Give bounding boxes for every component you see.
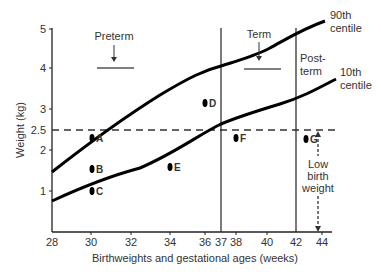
point-marker-icon [203, 99, 208, 107]
y-tick-label: 2.5 [31, 124, 46, 136]
postterm-label-2: term [300, 65, 322, 77]
y-tick-label: 3 [40, 103, 46, 115]
arrow-down-icon [315, 226, 321, 232]
point-marker-icon [234, 134, 239, 142]
x-tick-label: 34 [164, 236, 176, 248]
x-tick-label: 44 [316, 236, 328, 248]
point-F: F [234, 133, 247, 144]
term-annotation: Term [244, 28, 281, 69]
y-tick-label: 5 [40, 23, 46, 35]
y-ticks: 1 2 2.5 3 4 5 [31, 23, 52, 197]
preterm-label: Preterm [94, 30, 133, 42]
x-tick-label: 37 [215, 236, 227, 248]
y-tick-label: 4 [40, 62, 46, 74]
low-birth-weight-annotation: Low birth weight [301, 131, 334, 232]
point-D: D [203, 98, 217, 109]
point-E: E [168, 162, 182, 173]
point-label: C [96, 186, 103, 197]
point-marker-icon [168, 163, 173, 171]
point-C: C [90, 186, 104, 197]
lbw-label-3: weight [301, 182, 334, 194]
preterm-annotation: Preterm [94, 30, 134, 68]
point-B: B [90, 164, 104, 175]
lbw-label-2: birth [307, 170, 328, 182]
point-marker-icon [304, 135, 309, 143]
chart-svg: 1 2 2.5 3 4 5 28 30 32 34 36 37 38 40 42… [0, 0, 381, 280]
centile-90-label-1: 90th [330, 9, 351, 21]
point-G: G [304, 134, 319, 145]
term-label: Term [247, 28, 271, 40]
x-tick-label: 38 [230, 236, 242, 248]
x-tick-label: 42 [290, 236, 302, 248]
x-ticks: 28 30 32 34 36 37 38 40 42 44 [46, 232, 328, 248]
x-axis-title: Birthweights and gestational ages (weeks… [92, 252, 298, 264]
centile-10-label-2: centile [340, 79, 372, 91]
lbw-label-1: Low [308, 158, 328, 170]
x-tick-label: 28 [46, 236, 58, 248]
point-label: B [96, 164, 103, 175]
point-label: G [310, 134, 318, 145]
centile-10-label-1: 10th [340, 66, 361, 78]
centile-90-label-2: centile [330, 22, 362, 34]
postterm-label-1: Post- [300, 52, 326, 64]
point-marker-icon [90, 165, 95, 173]
x-tick-label: 30 [85, 236, 97, 248]
growth-chart: 1 2 2.5 3 4 5 28 30 32 34 36 37 38 40 42… [0, 0, 381, 280]
point-marker-icon [90, 187, 95, 195]
x-tick-label: 40 [261, 236, 273, 248]
point-label: D [209, 98, 216, 109]
y-tick-label: 2 [40, 144, 46, 156]
x-tick-label: 32 [125, 236, 137, 248]
point-label: E [174, 162, 181, 173]
point-label: A [96, 133, 103, 144]
y-axis-title: Weight (kg) [14, 102, 26, 158]
point-marker-icon [90, 134, 95, 142]
centile-90-curve [52, 21, 325, 172]
y-tick-label: 1 [40, 185, 46, 197]
point-label: F [240, 133, 246, 144]
x-tick-label: 36 [199, 236, 211, 248]
